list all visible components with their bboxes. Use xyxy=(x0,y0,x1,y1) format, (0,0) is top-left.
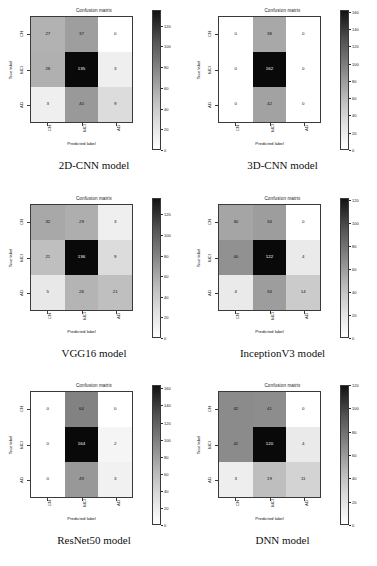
panel-caption: DNN model xyxy=(188,534,377,546)
cell-value: 32 xyxy=(45,220,50,224)
colorbar-tick-mark xyxy=(349,115,351,116)
colorbar-tick-label: 140 xyxy=(164,403,171,408)
cell-value: 19 xyxy=(267,477,272,481)
heatmap-cell: 4 xyxy=(286,427,320,462)
y-tick-label: MCI xyxy=(19,254,24,262)
heatmap-cell: 0 xyxy=(31,462,65,497)
colorbar-tick-mark xyxy=(349,455,351,456)
heatmap-cell: 3 xyxy=(219,462,253,497)
colorbar-tick-label: 160 xyxy=(352,9,359,14)
plot-area: Confusion matrix3229321136952621CNMCIADT… xyxy=(0,188,188,375)
cell-value: 162 xyxy=(266,67,273,71)
confusion-matrix-panel: Confusion matrix0380016200420CNMCIADTrue… xyxy=(188,0,377,188)
cell-value: 11 xyxy=(301,477,306,481)
x-tick-label: AD xyxy=(304,313,309,319)
cell-value: 3 xyxy=(235,477,237,481)
x-axis-label: Predicted label xyxy=(255,141,283,146)
colorbar-tick-label: 0 xyxy=(164,148,166,153)
colorbar-tick-mark xyxy=(349,315,351,316)
heatmap-cell: 34 xyxy=(253,205,287,240)
colorbar-tick-label: 100 xyxy=(352,61,359,66)
x-tick-label: AD xyxy=(116,313,121,319)
colorbar-tick-mark xyxy=(161,508,163,509)
heatmap-cell: 21 xyxy=(31,240,65,275)
colorbar-tick-label: 40 xyxy=(164,488,168,493)
colorbar-tick-mark xyxy=(349,246,351,247)
x-tick-mark xyxy=(270,311,271,314)
colorbar-tick-mark xyxy=(161,235,163,236)
heatmap-cell: 42 xyxy=(219,427,253,462)
x-tick-label: AD xyxy=(304,125,309,131)
x-axis-label: Predicted label xyxy=(255,329,283,334)
x-tick-mark xyxy=(304,311,305,314)
heatmap-cell: 19 xyxy=(253,462,287,497)
colorbar-tick-mark xyxy=(349,478,351,479)
plot-area: Confusion matrix0380016200420CNMCIADTrue… xyxy=(188,0,377,188)
colorbar-tick-label: 0 xyxy=(164,523,166,528)
colorbar-tick-mark xyxy=(161,457,163,458)
heatmap-cell: 0 xyxy=(219,17,253,52)
colorbar-tick-mark xyxy=(349,385,351,386)
cell-value: 0 xyxy=(302,32,304,36)
x-tick-mark xyxy=(304,498,305,501)
colorbar-tick-label: 100 xyxy=(352,406,359,411)
heatmap-cell: 0 xyxy=(286,17,320,52)
colorbar-tick-mark xyxy=(161,67,163,68)
cell-value: 3 xyxy=(114,220,116,224)
x-tick-mark xyxy=(235,311,236,314)
y-tick-mark xyxy=(215,222,218,223)
y-tick-label: CN xyxy=(19,31,24,37)
heatmap-cell: 122 xyxy=(253,240,287,275)
x-tick-label: CN xyxy=(47,125,52,131)
colorbar-tick-label: 80 xyxy=(164,65,168,70)
x-tick-label: AD xyxy=(116,125,121,131)
cell-value: 40 xyxy=(79,102,84,106)
cell-value: 135 xyxy=(78,67,85,71)
x-tick-label: CN xyxy=(235,313,240,319)
y-tick-label: MCI xyxy=(19,441,24,449)
panel-caption: InceptionV3 model xyxy=(188,347,377,359)
heatmap-cell: 40 xyxy=(219,240,253,275)
colorbar-tick-mark xyxy=(161,423,163,424)
x-axis-label: Predicted label xyxy=(67,516,95,521)
colorbar-tick-mark xyxy=(349,150,351,151)
x-tick-label: MCI xyxy=(270,499,275,507)
y-tick-mark xyxy=(215,445,218,446)
heatmap-matrix: 4241042120431911 xyxy=(218,391,321,498)
heatmap-cell: 3 xyxy=(98,52,132,87)
colorbar-tick-label: 100 xyxy=(164,437,171,442)
cell-value: 4 xyxy=(302,255,304,259)
cell-value: 3 xyxy=(47,102,49,106)
heatmap-cell: 28 xyxy=(31,52,65,87)
cell-value: 9 xyxy=(114,102,116,106)
heatmap-matrix: 3229321136952621 xyxy=(30,204,133,311)
heatmap-cell: 0 xyxy=(31,392,65,427)
x-tick-mark xyxy=(235,123,236,126)
heatmap-cell: 40 xyxy=(65,87,99,122)
colorbar-tick-label: 40 xyxy=(352,113,356,118)
x-tick-label: AD xyxy=(116,500,121,506)
colorbar-tick-mark xyxy=(349,292,351,293)
heatmap-cell: 42 xyxy=(219,392,253,427)
cell-value: 41 xyxy=(267,407,272,411)
heatmap-cell: 162 xyxy=(253,52,287,87)
cell-value: 64 xyxy=(79,407,84,411)
y-tick-label: AD xyxy=(207,102,212,108)
heatmap-cell: 5 xyxy=(31,275,65,310)
y-tick-label: MCI xyxy=(207,66,212,74)
x-axis-label: Predicted label xyxy=(67,141,95,146)
y-tick-mark xyxy=(215,258,218,259)
y-tick-mark xyxy=(215,293,218,294)
y-tick-label: MCI xyxy=(207,441,212,449)
colorbar-tick-mark xyxy=(161,46,163,47)
colorbar-tick-mark xyxy=(161,88,163,89)
x-tick-mark xyxy=(235,498,236,501)
heatmap-cell: 9 xyxy=(98,240,132,275)
colorbar-tick-label: 60 xyxy=(352,453,356,458)
x-tick-mark xyxy=(82,498,83,501)
heatmap-cell: 27 xyxy=(31,17,65,52)
y-tick-label: CN xyxy=(207,406,212,412)
x-tick-mark xyxy=(270,498,271,501)
x-axis-label: Predicted label xyxy=(255,516,283,521)
y-tick-mark xyxy=(215,480,218,481)
